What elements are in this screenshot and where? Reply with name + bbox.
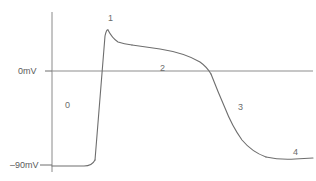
trace-phase-1-notch xyxy=(108,30,132,45)
trace-phase-3-repolarization xyxy=(211,74,266,157)
trace-resting-segment xyxy=(52,160,95,166)
phase-label-3: 3 xyxy=(238,102,243,112)
phase-label-1: 1 xyxy=(108,13,113,23)
phase-label-2: 2 xyxy=(160,63,165,73)
axis-tick-label-minus-90mv: –90mV xyxy=(10,160,39,170)
cardiac-action-potential-figure: 0mV –90mV 0 1 2 3 4 xyxy=(0,0,316,181)
phase-label-4: 4 xyxy=(293,147,298,157)
trace-phase-2-plateau xyxy=(132,45,211,74)
action-potential-plot xyxy=(0,0,316,181)
trace-phase-4-resting xyxy=(266,157,313,159)
axis-tick-label-0mv: 0mV xyxy=(18,66,37,76)
trace-phase-0-upstroke xyxy=(95,30,108,160)
phase-label-0: 0 xyxy=(65,100,70,110)
